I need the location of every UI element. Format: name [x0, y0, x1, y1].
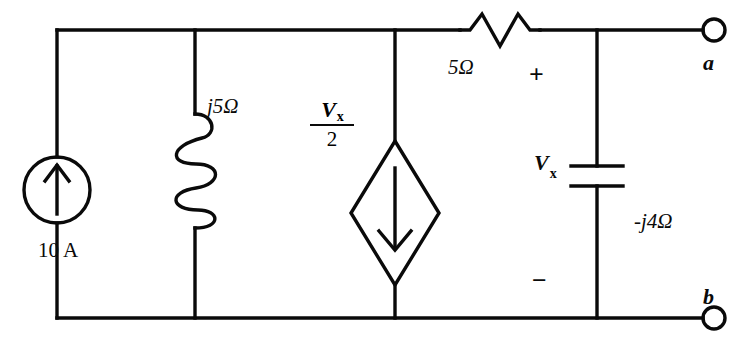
- capacitor-voltage-subscript: x: [550, 166, 557, 181]
- circuit-diagram: 10 A j5Ω Vx 2 5Ω + Vx -j4Ω − a b: [0, 0, 751, 343]
- terminal-a-node: [703, 19, 725, 41]
- terminal-b-node: [703, 307, 725, 329]
- dependent-source-numerator-subscript: x: [337, 109, 344, 124]
- capacitor-voltage-label: Vx: [534, 152, 556, 178]
- inductor-coil: [176, 114, 216, 228]
- capacitor-label: -j4Ω: [634, 211, 673, 232]
- voltage-polarity-plus: +: [529, 62, 544, 88]
- terminal-a-label: a: [703, 52, 714, 74]
- resistor-zigzag: [460, 14, 540, 46]
- inductor-label: j5Ω: [207, 96, 239, 117]
- dependent-source-denominator: 2: [297, 128, 367, 150]
- dependent-source-label: Vx 2: [297, 98, 367, 150]
- resistor-label: 5Ω: [448, 57, 474, 78]
- dependent-source-numerator: Vx: [297, 98, 367, 121]
- terminal-b-label: b: [703, 286, 714, 308]
- fraction-bar: [310, 124, 354, 126]
- voltage-polarity-minus: −: [532, 268, 547, 294]
- circuit-schematic-svg: [0, 0, 751, 343]
- current-source-label: 10 A: [38, 240, 78, 261]
